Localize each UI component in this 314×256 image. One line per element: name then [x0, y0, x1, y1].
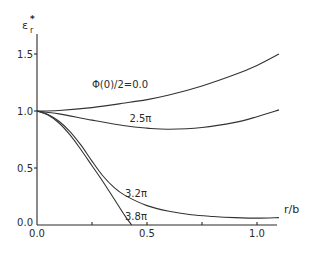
curve-label-3: 3.8π	[125, 211, 147, 222]
curve-label-0: Φ(0)/2=0.0	[92, 79, 148, 90]
x-tick-label: 0.0	[29, 228, 45, 239]
curve-series-2	[37, 111, 279, 218]
curve-series-3	[37, 111, 132, 225]
y-axis-title-sup: *	[30, 14, 35, 24]
x-tick-label: 1.0	[249, 228, 265, 239]
y-tick-label: 1.5	[17, 49, 33, 60]
curve-series-0	[37, 54, 279, 111]
curve-label-1: 2.5π	[129, 113, 151, 124]
x-tick-label: 0.5	[139, 228, 155, 239]
curve-label-2: 3.2π	[125, 188, 147, 199]
y-axis-title: ε r *	[22, 14, 35, 35]
chart: 0.00.51.0 0.00.51.01.5 Φ(0)/2=0.02.5π3.2…	[0, 0, 314, 256]
x-axis-title: r/b	[284, 203, 299, 216]
curves	[37, 54, 279, 225]
y-tick-label: 0.5	[17, 163, 33, 174]
y-axis-title-main: ε	[22, 19, 28, 32]
y-ticks: 0.00.51.01.5	[17, 49, 37, 228]
curve-series-1	[37, 110, 279, 129]
axes	[37, 34, 277, 225]
y-axis-title-sub: r	[30, 26, 34, 35]
y-tick-label: 0.0	[17, 217, 33, 228]
y-tick-label: 1.0	[17, 106, 33, 117]
